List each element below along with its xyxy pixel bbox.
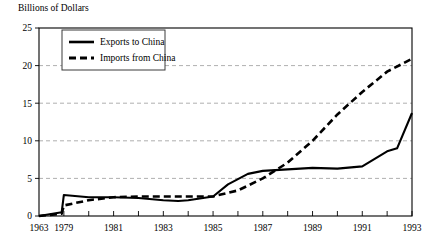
x-tick-label-1981: 1981 [104,223,123,233]
y-tick-label-25: 25 [23,23,33,33]
legend-box [62,30,165,70]
data-series-group [39,59,412,216]
china-trade-line-chart: Billions of Dollars 0510152025 196319791… [0,0,424,246]
x-tick-label-1993: 1993 [403,223,422,233]
gridlines-group [39,66,412,179]
x-tick-label-1985: 1985 [204,223,223,233]
chart-axis-title: Billions of Dollars [18,3,89,13]
y-tick-marks-group [35,28,39,216]
series-line-imports-from-china [39,59,412,216]
y-tick-labels-group: 0510152025 [23,23,33,221]
legend-label-exports-to-china: Exports to China [100,37,165,47]
legend-label-imports-from-china: Imports from China [100,53,176,63]
y-tick-label-15: 15 [23,99,33,109]
x-tick-label-1963: 1963 [30,223,49,233]
y-tick-label-20: 20 [23,61,33,71]
x-tick-labels-group: 196319791981198319851987198919911993 [30,223,422,233]
x-tick-label-1991: 1991 [353,223,372,233]
x-tick-label-1983: 1983 [154,223,173,233]
x-tick-label-1979: 1979 [54,223,73,233]
chart-legend: Exports to ChinaImports from China [62,30,176,70]
x-tick-marks-group [64,211,412,216]
x-tick-label-1987: 1987 [253,223,272,233]
x-tick-label-1989: 1989 [303,223,322,233]
series-line-exports-to-china [39,113,412,216]
y-tick-label-5: 5 [27,174,32,184]
y-tick-label-10: 10 [23,136,33,146]
y-tick-label-0: 0 [27,211,32,221]
